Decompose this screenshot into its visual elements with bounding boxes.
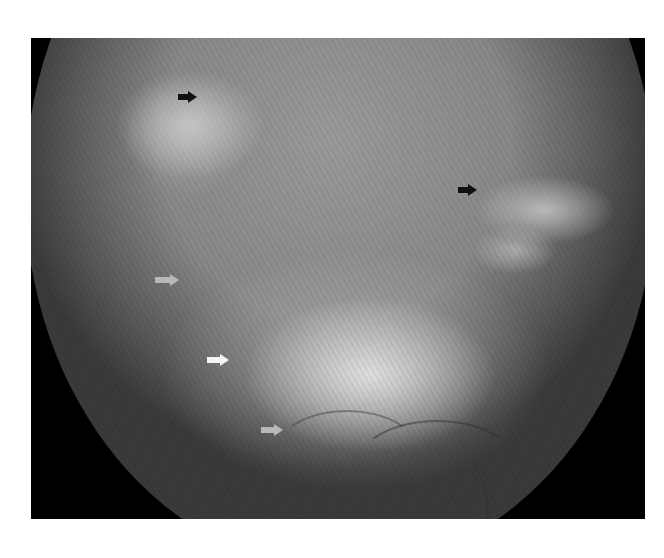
arrow-gray-upper [155, 275, 181, 285]
fundus-photo-frame [31, 38, 645, 519]
arrow-gray-lower [261, 425, 285, 435]
fundus-image [31, 38, 645, 519]
arrow-black-upper-left [178, 92, 198, 102]
lesion-right [475, 175, 615, 245]
lesion-upper-left [115, 70, 265, 180]
arrow-white-middle [207, 355, 231, 365]
arrow-black-right [458, 185, 478, 195]
